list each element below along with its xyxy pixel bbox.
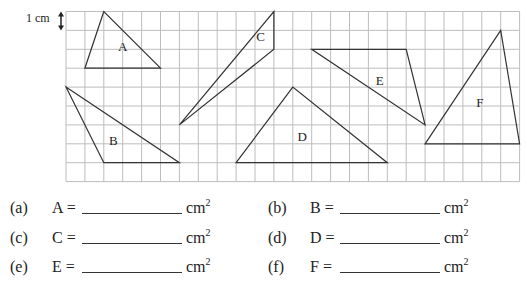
question-tag: (c)	[10, 225, 28, 251]
question-tag: (e)	[10, 254, 28, 280]
unit-label: cm2	[186, 195, 211, 221]
unit-label: cm2	[444, 225, 469, 251]
scale-arrow-down-icon	[58, 25, 64, 30]
shape-label: D =	[310, 225, 335, 251]
answer-blank-c[interactable]	[82, 243, 182, 244]
answer-blank-a[interactable]	[82, 213, 182, 214]
question-tag: (b)	[268, 195, 287, 221]
unit-label: cm2	[444, 195, 469, 221]
question-tag: (a)	[10, 195, 28, 221]
triangle-label-d: D	[298, 129, 307, 144]
unit-label: cm2	[186, 225, 211, 251]
shape-label: A =	[52, 195, 76, 221]
scale-label: 1 cm	[26, 11, 50, 26]
answer-blank-e[interactable]	[82, 272, 182, 273]
triangle-label-b: B	[109, 133, 118, 148]
question-tag: (f)	[268, 254, 284, 280]
triangle-label-e: E	[376, 73, 384, 88]
answer-blank-f[interactable]	[340, 272, 440, 273]
scale-arrow-up-icon	[58, 12, 64, 17]
grid-figure: 1 cm ABCDEF	[0, 0, 527, 190]
shape-label: E =	[52, 254, 75, 280]
shape-label: C =	[52, 225, 76, 251]
unit-label: cm2	[444, 254, 469, 280]
triangle-label-a: A	[118, 39, 128, 54]
answer-blank-d[interactable]	[340, 243, 440, 244]
triangle-label-c: C	[256, 29, 265, 44]
shape-label: F =	[310, 254, 332, 280]
triangle-label-f: F	[476, 95, 483, 110]
unit-label: cm2	[186, 254, 211, 280]
grid-diagram: ABCDEF	[0, 0, 527, 190]
question-tag: (d)	[268, 225, 287, 251]
shape-label: B =	[310, 195, 334, 221]
answer-blank-b[interactable]	[340, 213, 440, 214]
